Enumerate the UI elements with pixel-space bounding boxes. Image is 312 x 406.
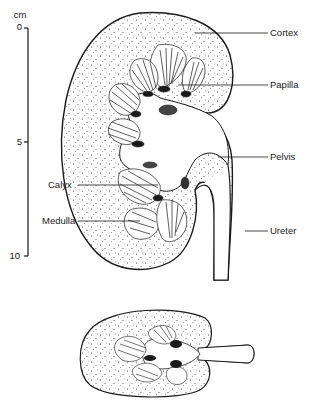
- scale-unit-label: cm: [10, 10, 30, 20]
- label-ureter: Ureter: [270, 226, 296, 236]
- papilla-dark-1: [158, 86, 170, 92]
- label-calyx: Calyx: [48, 180, 72, 190]
- kidney-longitudinal-section: [61, 13, 232, 280]
- label-cortex: Cortex: [270, 28, 298, 38]
- scale-tick-10: 10: [6, 251, 20, 261]
- label-medulla: Medulla: [42, 216, 75, 226]
- kidney-diagram-canvas: [0, 0, 312, 406]
- kidney-transverse-section: [80, 310, 254, 397]
- label-papilla: Papilla: [270, 80, 299, 90]
- label-pelvis: Pelvis: [270, 152, 295, 162]
- scale-tick-5: 5: [8, 137, 22, 147]
- scale-tick-0: 0: [8, 22, 22, 32]
- scale-bar: [24, 28, 28, 256]
